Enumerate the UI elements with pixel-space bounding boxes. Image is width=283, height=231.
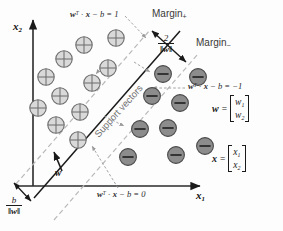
marker-positive: [56, 51, 72, 67]
vector-x-row1: x1: [233, 146, 240, 159]
marker-positive: [76, 37, 92, 53]
marker-negative: [144, 88, 161, 105]
marker-negative: [168, 147, 185, 164]
marker-positive: [84, 75, 100, 91]
vector-x-bracket: x1 x2: [228, 145, 245, 172]
marker-negative: [172, 95, 189, 112]
equation-margin-negative: wT · x − b = −1: [188, 82, 242, 91]
equation-margin-positive: wT · x − b = 1: [70, 10, 118, 19]
equation-decision-boundary: wT · x − b = 0: [97, 190, 145, 199]
margin-positive-label: Margin+: [152, 9, 187, 20]
vector-w-row1: w1: [235, 96, 244, 109]
vector-x-equals: =: [220, 154, 225, 164]
vector-x-name: x: [212, 153, 217, 164]
marker-positive: [72, 104, 88, 120]
vector-x-row2: x2: [233, 159, 240, 172]
vector-w-equals: =: [222, 104, 227, 114]
marker-positive: [48, 117, 64, 133]
marker-positive: [38, 69, 54, 85]
vector-w-definition: w = w1 w2: [212, 95, 249, 122]
offset-fraction: b ‖w‖: [6, 195, 22, 216]
pointer-eq-upper: [125, 16, 146, 38]
vector-x-definition: x = x1 x2: [212, 145, 246, 172]
vector-w-bracket: w1 w2: [230, 95, 249, 122]
marker-positive: [30, 100, 46, 116]
vector-w-row2: w2: [235, 109, 244, 122]
marker-positive: [52, 88, 68, 104]
axis-label-x: x1: [196, 190, 205, 203]
positive-markers: [30, 30, 124, 148]
pointer-eq-boundary: [92, 146, 118, 188]
marker-negative: [155, 66, 172, 83]
marker-negative: [197, 138, 214, 155]
marker-negative: [132, 121, 149, 138]
marker-positive: [108, 30, 124, 46]
marker-positive: [70, 132, 86, 148]
margin-negative-label: Margin−: [196, 38, 231, 49]
w-vector-label: w: [55, 168, 61, 178]
marker-positive: [100, 60, 116, 76]
vector-w-name: w: [212, 103, 219, 114]
margin-width-fraction: 2 ‖w‖: [158, 33, 174, 54]
axis-label-y: x2: [13, 21, 22, 34]
svm-diagram: x2 x1 wT · x − b = 1 wT · x − b = −1 wT …: [0, 0, 283, 231]
marker-negative: [160, 120, 177, 137]
marker-negative: [120, 149, 137, 166]
